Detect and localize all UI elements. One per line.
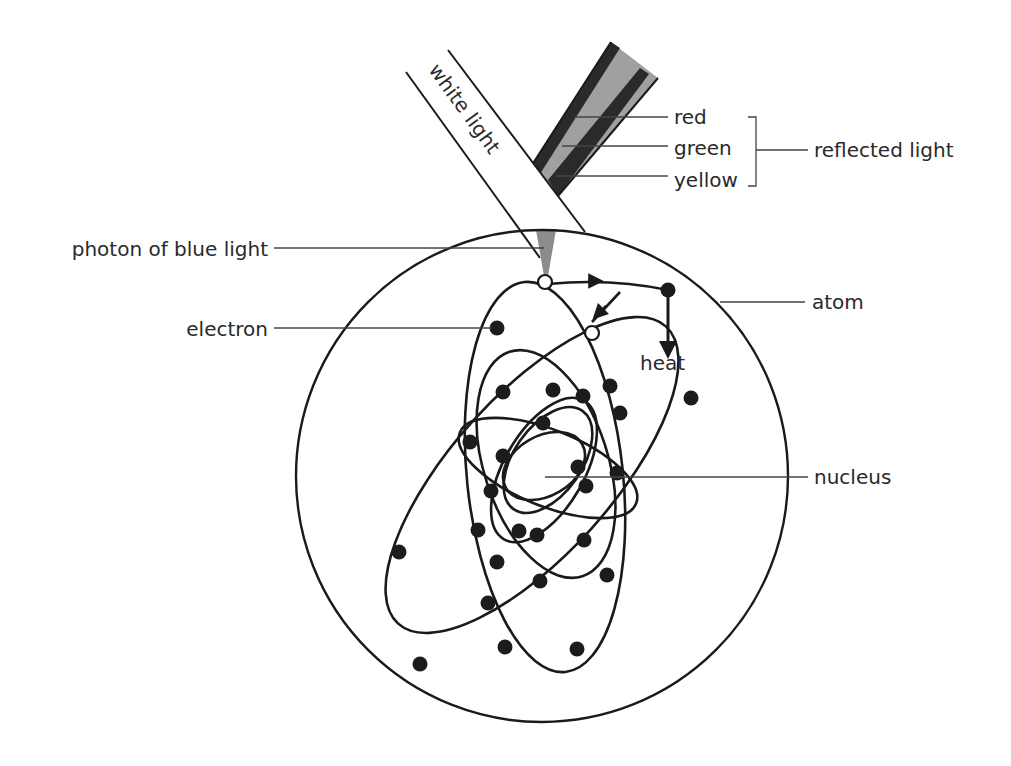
photon-label: photon of blue light [72, 237, 268, 261]
atom-boundary [296, 230, 788, 722]
electron-hole-upper [585, 326, 599, 340]
atom-label: atom [812, 290, 864, 314]
green-label: green [674, 136, 732, 160]
nucleus-label: nucleus [814, 465, 891, 489]
electron-hole-lower [538, 275, 552, 289]
reflected-light-label: reflected light [814, 138, 954, 162]
heat-label: heat [640, 351, 685, 375]
electron-label: electron [186, 317, 268, 341]
yellow-label: yellow [674, 168, 738, 192]
atom-light-diagram: white light [0, 0, 1011, 766]
transition-arrows [548, 281, 668, 350]
red-label: red [674, 105, 707, 129]
reflected-light-beam [530, 42, 658, 196]
